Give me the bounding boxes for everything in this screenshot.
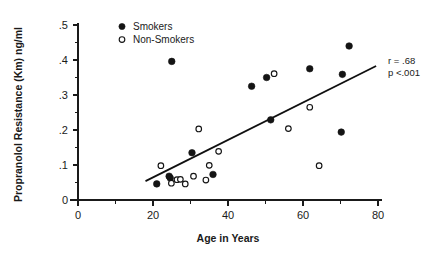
data-point-non-smoker [196, 126, 202, 132]
data-point-smoker [338, 129, 345, 136]
legend-marker-smokers [119, 23, 125, 29]
y-axis-tick-label: 0 [62, 194, 68, 206]
y-axis-tick-label: .5 [59, 19, 68, 31]
data-point-smoker [210, 171, 217, 178]
x-axis-tick-label: 40 [222, 209, 234, 221]
y-axis-tick-label: .2 [59, 124, 68, 136]
data-point-non-smoker [286, 126, 292, 132]
legend-label-non-smokers: Non-Smokers [133, 34, 194, 45]
series-smokers [153, 43, 352, 188]
y-axis-tick-label: .1 [59, 159, 68, 171]
scatter-plot-figure: 0.1.2.3.4.5020406080Propranolol Resistan… [0, 0, 445, 256]
regression-line [146, 66, 377, 181]
legend-marker-non-smokers [119, 37, 125, 43]
data-point-smoker [263, 74, 270, 81]
data-point-smoker [267, 117, 274, 124]
data-point-non-smoker [182, 181, 188, 187]
y-axis-tick-label: .4 [59, 54, 68, 66]
data-point-smoker [248, 83, 255, 90]
data-point-smoker [153, 181, 160, 188]
x-axis-tick-label: 0 [75, 209, 81, 221]
data-point-non-smoker [203, 177, 209, 183]
x-axis-tick-label: 80 [372, 209, 384, 221]
data-point-non-smoker [158, 163, 164, 169]
data-point-smoker [339, 71, 346, 78]
data-point-non-smoker [206, 163, 212, 169]
data-point-non-smoker [178, 177, 184, 183]
chart-canvas: 0.1.2.3.4.5020406080Propranolol Resistan… [0, 0, 445, 256]
annotation-p-value: p <.001 [388, 67, 420, 78]
legend-label-smokers: Smokers [133, 21, 172, 32]
data-point-smoker [346, 43, 353, 50]
y-axis-title: Propranolol Resistance (Km) ng/ml [12, 27, 24, 202]
data-point-smoker [168, 58, 175, 65]
data-point-smoker [306, 65, 313, 72]
data-point-non-smoker [191, 173, 197, 179]
x-axis-title: Age in Years [197, 232, 260, 244]
x-axis-tick-label: 20 [147, 209, 159, 221]
data-point-non-smoker [271, 71, 277, 77]
y-axis-tick-label: .3 [59, 89, 68, 101]
annotation-r-value: r = .68 [388, 55, 415, 66]
x-axis-tick-label: 60 [297, 209, 309, 221]
data-point-non-smoker [307, 104, 313, 110]
data-point-non-smoker [316, 163, 322, 169]
data-point-non-smoker [169, 180, 175, 186]
data-point-non-smoker [216, 149, 222, 155]
series-non-smokers [158, 71, 322, 187]
data-point-smoker [189, 149, 196, 156]
